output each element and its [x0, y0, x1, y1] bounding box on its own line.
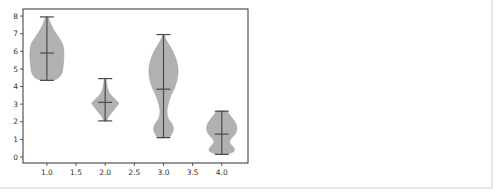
violin-4 — [207, 111, 237, 155]
x-tick-label: 3.5 — [187, 168, 199, 177]
y-tick-label: 7 — [13, 29, 18, 38]
y-tick-label: 0 — [13, 153, 18, 162]
y-tick-label: 6 — [13, 47, 18, 56]
violin-2 — [92, 78, 119, 122]
x-tick-label: 1.5 — [70, 168, 82, 177]
x-tick-label: 2.5 — [128, 168, 140, 177]
y-tick-label: 2 — [13, 117, 18, 126]
x-tick-label: 2.0 — [99, 168, 111, 177]
x-tick-label: 4.0 — [216, 168, 228, 177]
x-tick-label: 3.0 — [158, 168, 170, 177]
violin-chart: 012345678 1.01.52.02.53.03.54.0 — [0, 0, 496, 194]
y-tick-label: 5 — [13, 65, 18, 74]
y-tick-label: 1 — [13, 135, 18, 144]
violin-1 — [30, 16, 64, 81]
x-axis: 1.01.52.02.53.03.54.0 — [41, 163, 228, 177]
violin-layer — [30, 16, 237, 155]
violin-3 — [149, 34, 178, 138]
y-axis: 012345678 — [13, 12, 23, 162]
x-tick-label: 1.0 — [41, 168, 53, 177]
y-tick-label: 8 — [13, 12, 18, 21]
y-tick-label: 3 — [13, 100, 18, 109]
y-tick-label: 4 — [13, 82, 18, 91]
